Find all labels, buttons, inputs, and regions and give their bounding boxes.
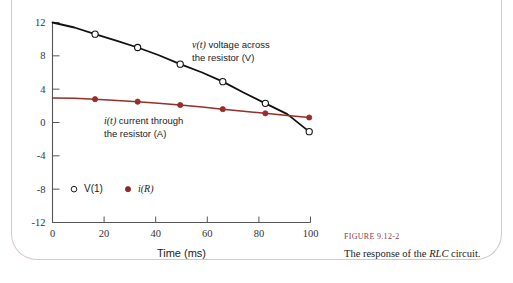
data-point-marker-V1-4 [262, 100, 268, 106]
caption-italic-term: RLC [429, 248, 448, 259]
data-point-marker-V1-5 [306, 129, 312, 135]
response-plot: 12840-4-8-12020406080100Time (ms)v(t) vo… [0, 0, 513, 283]
figure-page: 12840-4-8-12020406080100Time (ms)v(t) vo… [0, 0, 513, 283]
x-axis-title: Time (ms) [157, 247, 206, 259]
legend-label-current: i(R) [138, 183, 154, 195]
data-point-marker-iR-1 [135, 99, 140, 104]
data-point-marker-V1-3 [220, 79, 226, 85]
data-point-marker-iR-4 [263, 111, 268, 116]
data-point-marker-iR-5 [307, 115, 312, 120]
figure-number: 9.12-2 [377, 232, 399, 241]
data-point-marker-V1-2 [177, 61, 183, 67]
x-axis-tick-label-2: 40 [150, 228, 161, 239]
annotation-current: i(t) current throughthe resistor (A) [104, 115, 183, 139]
figure-caption-text: The response of the RLC circuit. [344, 247, 509, 260]
data-point-marker-iR-2 [178, 102, 183, 107]
figure-plot-area: 12840-4-8-12020406080100Time (ms)v(t) vo… [0, 0, 513, 283]
y-axis-tick-label-1: 8 [40, 50, 45, 61]
legend-marker-current [125, 187, 130, 192]
figure-caption-label: FIGURE 9.12-2 [344, 232, 399, 242]
y-axis-tick-label-4: -4 [37, 150, 46, 161]
y-axis-tick-label-0: 12 [35, 17, 46, 28]
y-axis-tick-label-5: -8 [37, 184, 46, 195]
annotation-voltage: v(t) voltage acrossthe resistor (V) [192, 39, 270, 63]
x-axis-tick-label-3: 60 [202, 228, 213, 239]
legend-marker-voltage [71, 186, 77, 192]
x-axis-tick-label-4: 80 [254, 228, 265, 239]
x-axis-tick-label-0: 0 [50, 228, 55, 239]
data-point-marker-V1-1 [135, 44, 141, 50]
y-axis-tick-label-2: 4 [40, 84, 46, 95]
y-axis-tick-label-3: 0 [40, 117, 45, 128]
y-axis-tick-label-6: -12 [32, 217, 46, 228]
data-point-marker-iR-3 [220, 107, 225, 112]
x-axis-tick-label-1: 20 [99, 228, 110, 239]
data-point-marker-V1-0 [92, 31, 98, 37]
x-axis-tick-label-5: 100 [303, 228, 319, 239]
data-point-marker-iR-0 [92, 97, 97, 102]
legend-label-voltage: V(1) [84, 183, 103, 194]
